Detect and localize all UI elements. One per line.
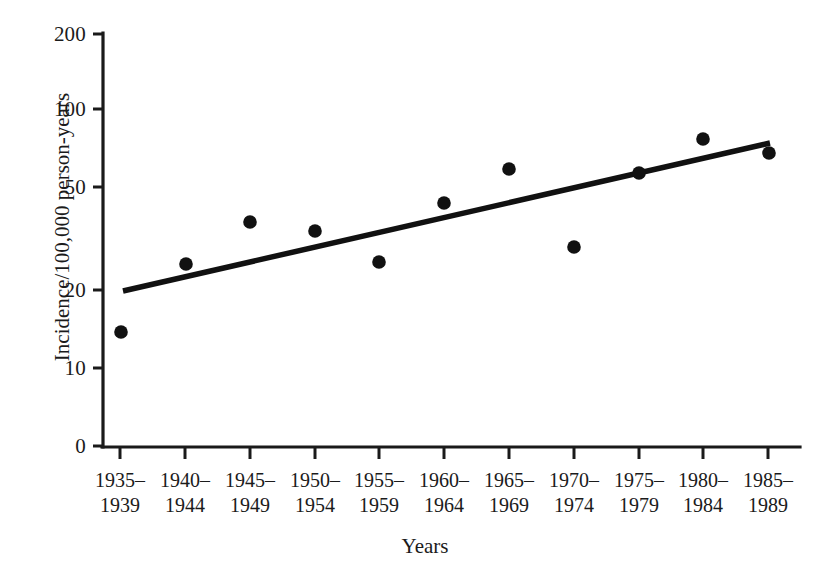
data-point bbox=[179, 257, 193, 271]
data-point bbox=[762, 146, 776, 160]
data-point bbox=[114, 325, 128, 339]
data-point bbox=[308, 224, 322, 238]
y-axis-title: Incidence/100,000 person-years bbox=[47, 47, 77, 407]
x-tick-label: 1985– 1989 bbox=[728, 468, 808, 518]
x-tick-label-line2: 1989 bbox=[728, 493, 808, 518]
y-axis-title-wrapper: Incidence/100,000 person-years bbox=[47, 47, 77, 407]
data-point bbox=[372, 255, 386, 269]
y-tick-label: 0 bbox=[20, 436, 86, 457]
data-point bbox=[696, 132, 710, 146]
data-point bbox=[567, 240, 581, 254]
data-point bbox=[632, 166, 646, 180]
chart-figure: 200 100 50 20 10 0 1935– 1939 1940– 1944… bbox=[0, 0, 816, 586]
data-point bbox=[502, 162, 516, 176]
data-point bbox=[437, 196, 451, 210]
x-tick-label-line1: 1985– bbox=[728, 468, 808, 493]
x-axis-ticks bbox=[120, 447, 768, 459]
trend-line bbox=[123, 143, 770, 291]
x-axis-title: Years bbox=[330, 533, 520, 559]
y-tick-label: 200 bbox=[20, 24, 86, 45]
data-point bbox=[243, 215, 257, 229]
